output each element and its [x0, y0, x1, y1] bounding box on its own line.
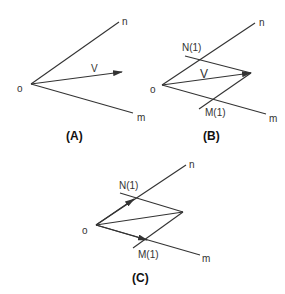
panel-b: o n m V N(1) M(1) (B) [150, 17, 277, 143]
axis-n-line [162, 23, 255, 85]
axis-m-label: m [202, 253, 210, 264]
panel-c: o n m N(1) M(1) (C) [82, 159, 210, 285]
axis-n-label: n [189, 159, 195, 170]
panel-a: o n m V (A) [17, 16, 145, 143]
panel-b-caption: (B) [203, 129, 220, 143]
component-m1-arrow [96, 225, 147, 240]
m1-label: M(1) [205, 107, 226, 118]
origin-label: o [17, 83, 23, 94]
panel-a-caption: (A) [66, 129, 83, 143]
vector-v-label: V [91, 63, 98, 74]
axis-m-label: m [137, 112, 145, 123]
n1-label: N(1) [182, 42, 201, 53]
axis-m-line [31, 84, 133, 113]
panel-c-caption: (C) [132, 271, 149, 285]
vector-v-line [96, 212, 183, 225]
axis-m-label: m [269, 113, 277, 124]
axis-n-label: n [122, 16, 128, 27]
m1-label: M(1) [138, 249, 159, 260]
origin-label: o [82, 225, 88, 236]
axis-n-line [31, 22, 119, 84]
vector-v-label: V [200, 67, 208, 81]
parallel-n1-line [185, 56, 251, 73]
n1-label: N(1) [119, 180, 138, 191]
origin-label: o [150, 84, 156, 95]
axis-n-label: n [259, 17, 265, 28]
component-n1-arrow [96, 199, 134, 225]
vector-decomposition-diagram: o n m V (A) o n m V N(1) M(1) (B) o n m … [0, 0, 285, 294]
